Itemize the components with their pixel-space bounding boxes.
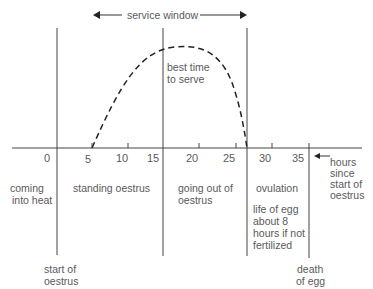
coming-label-2: into heat — [12, 194, 52, 206]
tick-5: 5 — [85, 153, 91, 165]
coming-label: coming — [10, 182, 44, 194]
egg-life-label: life of egg — [253, 203, 299, 215]
axis-ticks — [92, 143, 309, 148]
service-window-label: service window — [127, 9, 198, 21]
ovulation-label: ovulation — [256, 182, 298, 194]
tick-15: 15 — [147, 152, 159, 164]
arrow-left-icon — [93, 11, 100, 19]
tick-0: 0 — [44, 152, 50, 164]
best-time-label: best time — [167, 61, 210, 73]
hours-label-4: oestrus — [330, 189, 364, 201]
death-egg-label-2: of egg — [296, 275, 325, 287]
egg-life-label-4: fertilized — [253, 239, 292, 251]
tick-20: 20 — [186, 152, 198, 164]
egg-life-label-2: about 8 — [253, 215, 288, 227]
death-egg-label: death — [297, 263, 323, 275]
standing-oestrus-label: standing oestrus — [73, 182, 150, 194]
egg-life-label-3: hours if not — [253, 227, 305, 239]
tick-35: 35 — [292, 152, 304, 164]
diagram-graphics — [0, 0, 373, 289]
going-out-label-2: oestrus — [178, 194, 212, 206]
start-oestrus-label-2: oestrus — [44, 275, 78, 287]
best-time-label-2: to serve — [167, 73, 204, 85]
tick-25: 25 — [223, 152, 235, 164]
hours-arrow-icon — [314, 153, 320, 159]
arrow-right-icon — [240, 11, 247, 19]
tick-30: 30 — [259, 152, 271, 164]
start-oestrus-label: start of — [44, 263, 76, 275]
going-out-label: going out of — [178, 182, 233, 194]
tick-10: 10 — [116, 152, 128, 164]
